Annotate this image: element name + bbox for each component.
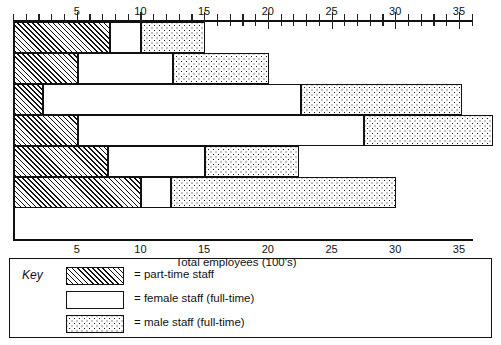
axis-tick-major [204, 12, 205, 21]
chart-root: 5101520253035 5101520253035 Total employ… [0, 0, 501, 345]
bar-row [14, 22, 205, 53]
dotted-swatch [66, 315, 124, 333]
axis-tick-minor [51, 14, 52, 20]
axis-tick-minor [344, 14, 345, 20]
bar-segment-female [43, 84, 300, 115]
axis-tick-major [77, 12, 78, 21]
bar-segment-part-time [14, 22, 110, 53]
axis-tick-minor [306, 14, 307, 20]
legend-box: Key = part-time staff= female staff (ful… [9, 258, 492, 338]
axis-tick-label: 5 [74, 244, 80, 255]
axis-tick-major [459, 12, 460, 21]
legend-item-label: = female staff (full-time) [134, 292, 254, 304]
axis-tick-major [268, 12, 269, 21]
bar-segment-part-time [14, 146, 108, 177]
hatched-swatch [66, 267, 124, 285]
axis-tick-minor [38, 14, 39, 20]
bar-segment-part-time [14, 115, 78, 146]
bar-row [14, 53, 269, 84]
axis-tick-minor [408, 14, 409, 20]
axis-tick-minor [115, 14, 116, 20]
bar-segment-female [78, 115, 365, 146]
axis-tick-minor [242, 14, 243, 20]
axis-tick-minor [319, 14, 320, 20]
axis-tick-label: 30 [389, 244, 401, 255]
axis-tick-minor [13, 14, 14, 20]
axis-tick-minor [446, 14, 447, 20]
axis-tick-minor [179, 14, 180, 20]
bar-segment-part-time [14, 84, 43, 115]
axis-tick-label: 25 [325, 244, 337, 255]
axis-tick-minor [382, 14, 383, 20]
bar-segment-female [78, 53, 174, 84]
legend-item-label: = part-time staff [134, 268, 214, 280]
bar-row [14, 115, 493, 146]
axis-tick-minor [255, 14, 256, 20]
bar-segment-male [301, 84, 463, 115]
axis-tick-minor [102, 14, 103, 20]
bar-row [14, 84, 462, 115]
axis-tick-minor [26, 14, 27, 20]
bar-group [14, 22, 473, 239]
bar-row [14, 177, 396, 208]
axis-tick-label: 20 [262, 244, 274, 255]
axis-tick-minor [370, 14, 371, 20]
bar-segment-male [205, 146, 299, 177]
bar-segment-female [110, 22, 142, 53]
axis-tick-minor [472, 14, 473, 20]
axis-tick-minor [433, 14, 434, 20]
axis-tick-major [332, 12, 333, 21]
axis-tick-label: 10 [134, 244, 146, 255]
bar-segment-part-time [14, 177, 141, 208]
axis-tick-minor [357, 14, 358, 20]
axis-tick-major [140, 12, 141, 21]
axis-tick-minor [166, 14, 167, 20]
plot-area: 5101520253035 5101520253035 [13, 20, 473, 240]
axis-tick-major [395, 12, 396, 21]
axis-tick-minor [230, 14, 231, 20]
axis-tick-minor [293, 14, 294, 20]
axis-tick-label: 15 [198, 244, 210, 255]
bar-segment-male [173, 53, 269, 84]
bottom-axis-line [13, 239, 473, 241]
legend-key-label: Key [22, 268, 43, 282]
legend-item-label: = male staff (full-time) [134, 316, 245, 328]
bar-segment-female [108, 146, 205, 177]
axis-tick-minor [89, 14, 90, 20]
bar-segment-female [141, 177, 170, 208]
axis-tick-minor [191, 14, 192, 20]
axis-tick-minor [217, 14, 218, 20]
axis-tick-minor [281, 14, 282, 20]
bar-segment-male [171, 177, 396, 208]
bar-segment-part-time [14, 53, 78, 84]
axis-tick-minor [64, 14, 65, 20]
bar-segment-male [364, 115, 493, 146]
axis-tick-minor [128, 14, 129, 20]
axis-tick-label: 35 [453, 244, 465, 255]
bar-row [14, 146, 299, 177]
axis-tick-minor [421, 14, 422, 20]
white-swatch [66, 291, 124, 309]
axis-tick-minor [153, 14, 154, 20]
bar-segment-male [141, 22, 205, 53]
